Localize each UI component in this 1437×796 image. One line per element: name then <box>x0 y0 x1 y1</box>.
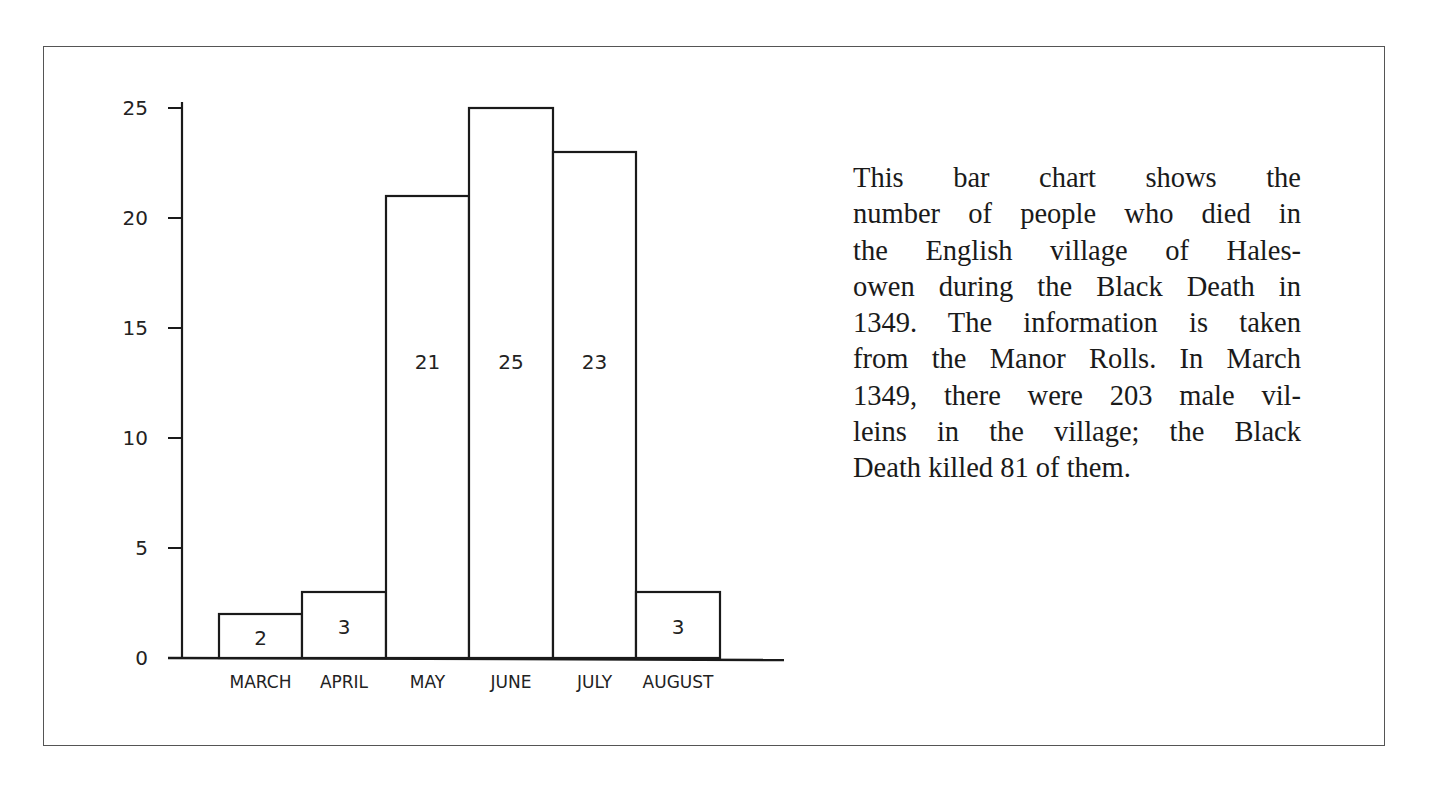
description-line: number of people who died in <box>853 196 1301 232</box>
bar-july <box>553 152 636 658</box>
x-tick-label: JUNE <box>490 672 532 692</box>
bars: 232125233 <box>219 108 720 658</box>
bar-value-label: 2 <box>254 626 267 650</box>
y-tick-label: 10 <box>123 426 148 450</box>
bar-value-label: 3 <box>338 615 351 639</box>
x-tick-label: JULY <box>576 672 613 692</box>
y-tick-label: 5 <box>135 536 148 560</box>
bar-value-label: 25 <box>498 350 523 374</box>
y-tick-label: 0 <box>135 646 148 670</box>
y-tick-label: 20 <box>123 206 148 230</box>
description-line: 1349. The information is taken <box>853 305 1301 341</box>
y-tick-label: 25 <box>123 96 148 120</box>
description-line: Death killed 81 of them. <box>853 450 1301 486</box>
x-tick-label: APRIL <box>320 672 369 692</box>
description-line: 1349, there were 203 male vil- <box>853 378 1301 414</box>
description-line: from the Manor Rolls. In March <box>853 341 1301 377</box>
bar-june <box>469 108 553 658</box>
description-line: leins in the village; the Black <box>853 414 1301 450</box>
bar-value-label: 21 <box>415 350 440 374</box>
description-line: owen during the Black Death in <box>853 269 1301 305</box>
x-axis-labels: MARCHAPRILMAYJUNEJULYAUGUST <box>230 672 715 692</box>
y-tick-label: 15 <box>123 316 148 340</box>
description-line: This bar chart shows the <box>853 160 1301 196</box>
chart-description: This bar chart shows the number of peopl… <box>853 160 1301 487</box>
bar-value-label: 3 <box>672 615 685 639</box>
x-tick-label: AUGUST <box>643 672 714 692</box>
x-tick-label: MAY <box>410 672 446 692</box>
bar-may <box>386 196 469 658</box>
x-tick-label: MARCH <box>230 672 292 692</box>
description-line: the English village of Hales- <box>853 233 1301 269</box>
bar-value-label: 23 <box>582 350 607 374</box>
